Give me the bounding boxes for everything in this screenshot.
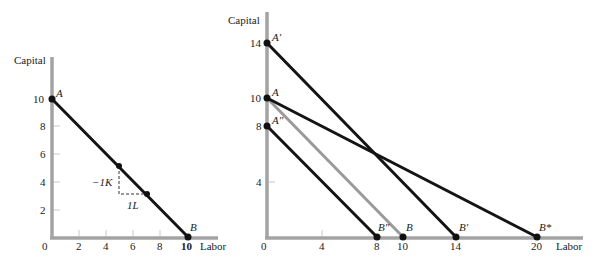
left-x-tick-label: 6: [130, 240, 136, 252]
right-point-a-dprime: [264, 123, 271, 130]
right-label-a-dprime: A″: [271, 114, 284, 126]
left-y-tick-label: 6: [40, 148, 46, 160]
right-y-axis-label: Capital: [228, 14, 260, 26]
right-line-ab-gray: [268, 99, 403, 237]
left-y-tick-label: 4: [40, 176, 46, 188]
right-x-axis-label: Labor: [556, 240, 583, 252]
one-l-label: 1L: [127, 199, 139, 211]
right-point-b-star: [534, 234, 541, 241]
right-chart: Capital Labor 14 10 8 4 0 4 8 10 14 20 A…: [228, 12, 583, 252]
left-point-5-5: [116, 163, 122, 169]
left-x-tick-label: 8: [157, 240, 163, 252]
right-x-tick-label: 8: [374, 240, 380, 252]
right-line-a-dprime-b-dprime: [267, 126, 377, 237]
right-label-a-prime: A′: [271, 31, 282, 43]
right-label-b: B: [406, 221, 413, 233]
left-x-tick-label: 0: [42, 240, 48, 252]
minus-1k-label: −1K: [92, 176, 113, 188]
right-point-b: [400, 234, 407, 241]
right-x-tick-label: 10: [397, 240, 409, 252]
left-x-tick-label: 10: [181, 240, 193, 252]
right-point-a-prime: [264, 40, 271, 47]
right-x-tick-label: 4: [319, 240, 325, 252]
right-x-tick-label: 14: [450, 240, 462, 252]
left-y-tick-label: 10: [33, 93, 45, 105]
left-point-7-3: [144, 191, 150, 197]
left-point-a: [49, 96, 56, 103]
right-label-b-star: B*: [539, 221, 552, 233]
left-chart: Capital Labor 10 8 6 4 2 0 2 4 6 8 10 A …: [14, 54, 227, 252]
right-x-tick-label: 20: [531, 240, 543, 252]
right-label-b-dprime: B″: [378, 221, 390, 233]
right-point-a: [264, 95, 271, 102]
left-x-tick-label: 2: [76, 240, 82, 252]
right-label-b-prime: B′: [459, 221, 469, 233]
right-y-tick-label: 4: [256, 176, 262, 188]
left-point-b: [185, 234, 192, 241]
left-y-axis-label: Capital: [14, 54, 46, 66]
right-point-b-prime: [453, 234, 460, 241]
right-y-tick-label: 14: [250, 37, 262, 49]
production-isocost-figure: Capital Labor 10 8 6 4 2 0 2 4 6 8 10 A …: [0, 0, 598, 266]
right-x-tick-label: 0: [261, 240, 267, 252]
left-label-a: A: [55, 87, 63, 99]
right-line-a-prime-b-prime: [267, 43, 456, 237]
left-x-axis-label: Labor: [200, 240, 227, 252]
left-y-tick-label: 8: [40, 120, 46, 132]
right-label-a: A: [271, 86, 279, 98]
right-y-tick-label: 10: [250, 92, 262, 104]
left-label-b: B: [190, 221, 197, 233]
left-x-tick-label: 4: [103, 240, 109, 252]
left-y-tick-label: 2: [40, 204, 46, 216]
right-point-b-dprime: [374, 234, 381, 241]
right-y-tick-label: 8: [256, 120, 262, 132]
